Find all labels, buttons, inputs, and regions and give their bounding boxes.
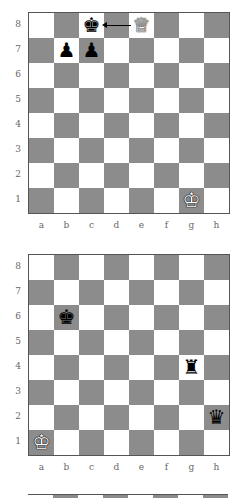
square-d8 — [104, 255, 129, 280]
square-c5 — [79, 330, 104, 355]
square-e1 — [129, 188, 154, 213]
chess-diagram-3-partial — [28, 494, 228, 498]
square-f5 — [154, 88, 179, 113]
square-g6 — [179, 305, 204, 330]
square-f4 — [154, 113, 179, 138]
square-h4 — [204, 113, 229, 138]
square-b8 — [54, 13, 79, 38]
file-label: c — [79, 462, 104, 472]
square-f6 — [154, 63, 179, 88]
square-a6 — [29, 63, 54, 88]
square-e4 — [129, 113, 154, 138]
square-a3 — [29, 138, 54, 163]
square-h2: ♛ — [204, 405, 229, 430]
square-g1 — [179, 430, 204, 455]
square-g7 — [179, 280, 204, 305]
square-b5 — [54, 88, 79, 113]
square-d2 — [104, 163, 129, 188]
square-b2 — [54, 163, 79, 188]
square-e5 — [129, 88, 154, 113]
square-b5 — [54, 330, 79, 355]
square-g2 — [179, 405, 204, 430]
square-g6 — [179, 63, 204, 88]
black-pawn-icon: ♟ — [58, 38, 76, 63]
square-a7 — [29, 280, 54, 305]
square-d4 — [104, 113, 129, 138]
square-d6 — [104, 63, 129, 88]
rank-label: 1 — [13, 194, 23, 204]
square-b3 — [54, 380, 79, 405]
square-d1 — [104, 430, 129, 455]
square-e2 — [129, 405, 154, 430]
black-king-icon: ♚ — [83, 13, 101, 38]
square-g5 — [179, 88, 204, 113]
square-g3 — [179, 138, 204, 163]
square-b6 — [54, 63, 79, 88]
rank-label: 7 — [13, 44, 23, 54]
square-f1 — [154, 430, 179, 455]
rank-label: 5 — [13, 94, 23, 104]
square-e3 — [129, 138, 154, 163]
file-label: a — [29, 462, 54, 472]
square-f8 — [154, 255, 179, 280]
rank-label: 8 — [13, 261, 23, 271]
square-e3 — [129, 380, 154, 405]
square-e8: ♕ — [129, 13, 154, 38]
square-b2 — [54, 405, 79, 430]
square-f4 — [154, 355, 179, 380]
square-c7: ♟ — [79, 38, 104, 63]
square-g5 — [179, 330, 204, 355]
square-a4 — [29, 113, 54, 138]
square-c1 — [79, 430, 104, 455]
square-h6 — [204, 305, 229, 330]
square-f7 — [154, 280, 179, 305]
square-h8 — [204, 255, 229, 280]
square-h7 — [204, 38, 229, 63]
square-h6 — [204, 63, 229, 88]
square-e2 — [129, 163, 154, 188]
square-c6 — [79, 63, 104, 88]
square-h2 — [204, 163, 229, 188]
rank-label: 7 — [13, 286, 23, 296]
square-g3 — [179, 380, 204, 405]
square-e7 — [129, 38, 154, 63]
square-a5 — [29, 88, 54, 113]
square-d5 — [104, 88, 129, 113]
rank-label: 5 — [13, 336, 23, 346]
square-b7: ♟ — [54, 38, 79, 63]
square-g1: ♔ — [179, 188, 204, 213]
square-d7 — [104, 280, 129, 305]
square-b8 — [54, 255, 79, 280]
square-a1 — [29, 188, 54, 213]
file-label: b — [54, 220, 79, 230]
square-f2 — [154, 405, 179, 430]
square-d3 — [104, 138, 129, 163]
square-f3 — [154, 138, 179, 163]
square-h3 — [204, 138, 229, 163]
square-f3 — [154, 380, 179, 405]
square-d3 — [104, 380, 129, 405]
square-c2 — [79, 163, 104, 188]
rank-label: 6 — [13, 69, 23, 79]
square-h4 — [204, 355, 229, 380]
file-label: e — [129, 220, 154, 230]
file-label: h — [204, 220, 229, 230]
square-e1 — [129, 430, 154, 455]
square-c8 — [79, 255, 104, 280]
square-d4 — [104, 355, 129, 380]
square-f7 — [154, 38, 179, 63]
file-label: g — [179, 462, 204, 472]
square-a6 — [29, 305, 54, 330]
chessboard: ♚♜♛♔ — [28, 254, 230, 456]
rank-label: 3 — [13, 144, 23, 154]
square-h5 — [204, 330, 229, 355]
square-c8: ♚ — [79, 13, 104, 38]
square-e7 — [129, 280, 154, 305]
chess-diagram-1: ♚♕♟♟♔87654321abcdefgh — [0, 0, 241, 240]
rank-label: 3 — [13, 386, 23, 396]
chessboard: ♚♕♟♟♔ — [28, 12, 230, 214]
square-b3 — [54, 138, 79, 163]
square-h7 — [204, 280, 229, 305]
file-label: c — [79, 220, 104, 230]
square-d6 — [104, 305, 129, 330]
